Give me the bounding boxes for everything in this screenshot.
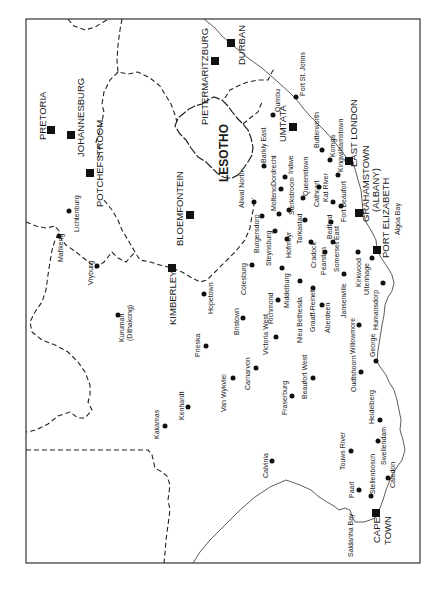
town-label: Willowmore [349, 318, 356, 354]
city-marker-johannesburg [67, 131, 75, 139]
town-marker-beaufort-west [311, 376, 316, 381]
town-label: Graaff-Reinet [309, 290, 316, 332]
city-label: PORT ELIZABETH [380, 177, 391, 258]
town-marker-barkly-east [262, 164, 267, 169]
town-label: Uitenhage [363, 263, 371, 295]
town-label: Hofmeyr [285, 231, 293, 258]
town-marker-kat-river [331, 200, 336, 205]
province-border [26, 450, 170, 563]
town-label: Burgersdorp [253, 214, 261, 253]
town-label: Nieu Bethesda [296, 297, 303, 343]
province-border [243, 102, 262, 124]
town-marker-george [374, 359, 379, 364]
town-marker-jansenville [342, 272, 347, 277]
south-africa-map: LESOTHO PRETORIA JOHANNESBURG POTCHEFSTR… [0, 0, 433, 593]
city-marker-potchefstroom [86, 169, 94, 177]
town-label: Dordrecht [270, 155, 277, 186]
town-marker-victoria-west [274, 335, 279, 340]
town-label: Aliwal North [238, 171, 245, 208]
town-label: Van Wykvlei [220, 374, 228, 412]
town-label: Tarkastad [296, 214, 303, 244]
town-label: Prieska [194, 334, 201, 357]
city-marker-umtata [289, 123, 297, 131]
town-label: Kingwilliamstown [337, 119, 345, 172]
town-label: Qumbu [274, 89, 282, 112]
town-marker-bristown [241, 316, 246, 321]
town-label: George [369, 334, 377, 357]
town-label: Saldanha Bay [347, 513, 355, 557]
province-border [117, 19, 177, 122]
town-label: Barkly East [260, 128, 268, 163]
city-label: TOWN [382, 516, 393, 545]
town-marker-indwe [283, 175, 288, 180]
city-label: BLOEMFONTEIN [174, 171, 185, 246]
town-label: Butterworth [313, 112, 320, 148]
town-marker-paarl [357, 488, 362, 493]
city-marker-cape-town [372, 509, 380, 517]
town-label: Aberdeen [324, 303, 331, 333]
city-marker-pretoria [47, 126, 55, 134]
town-label: Steynsburg [265, 230, 273, 266]
town-marker-heidelberg [378, 418, 383, 423]
town-marker-richmond [276, 298, 281, 303]
town-marker-aliwal-north [252, 200, 257, 205]
city-label: CAPE [371, 517, 382, 543]
town-label: (Dithakong) [126, 305, 134, 341]
town-label: Fraserburg [281, 381, 289, 415]
town-label: Algoa Bay [394, 203, 402, 235]
town-label: Colesburg [240, 263, 248, 295]
city-label: PRETORIA [37, 91, 48, 140]
town-label: Caledon [389, 462, 396, 488]
town-marker-hopetown [202, 292, 207, 297]
city-label: EAST LONDON [348, 99, 359, 167]
town-marker-kingwilliamstown [336, 173, 341, 178]
town-marker-kenhardt [186, 405, 191, 410]
town-label: Humansdorp [372, 290, 380, 330]
province-border [59, 236, 135, 268]
town-label: Kenhardt [178, 392, 185, 420]
town-label: Beaufort West [301, 355, 308, 399]
town-marker-middelburg [280, 266, 285, 271]
town-label: Oudtshoorn [350, 355, 357, 392]
town-marker-kakamas [163, 424, 168, 429]
city-label: POTCHEFSTROOM [94, 120, 105, 207]
town-marker-dordrecht [279, 187, 284, 192]
town-label: Fort Beaufort [340, 181, 347, 222]
city-marker-bloemfontein [186, 211, 194, 219]
town-label: Cathcart [313, 180, 320, 207]
town-marker-willowmore [357, 323, 362, 328]
region-label-lesotho: LESOTHO [217, 124, 231, 182]
town-marker-graaff-reinet [311, 286, 316, 291]
town-marker-butterworth [320, 148, 325, 153]
city-label: DURBAN [236, 25, 247, 65]
town-label: Komga [329, 135, 337, 157]
town-label: Pearston [320, 247, 327, 275]
town-label: Paarl [348, 481, 355, 498]
town-marker-tarkastad [303, 218, 308, 223]
town-marker-colesburg [250, 263, 255, 268]
province-border [68, 19, 110, 30]
town-label: Queenstown [302, 157, 310, 196]
town-marker-oudtshoorn [359, 370, 364, 375]
town-label: Port St. Johns [299, 52, 306, 96]
town-label: Mafikeng [57, 233, 65, 262]
town-marker-burgersdorp [260, 214, 265, 219]
town-label: Touws River [339, 431, 346, 470]
town-marker-nieu-bethesda [298, 279, 303, 284]
town-label: Kat River [322, 173, 329, 202]
town-label: Bristown [233, 308, 240, 335]
town-marker-prieska [204, 344, 209, 349]
town-label: Middelburg [283, 273, 291, 308]
city-label: PIETERMARITZBURG [199, 28, 210, 125]
city-label: KIMBERLEY [167, 270, 178, 325]
town-label: Kirkwood [355, 258, 362, 287]
town-label: Carnarvon [244, 357, 251, 390]
town-marker-van-wykvlei [231, 376, 236, 381]
town-label: Sterkstroom [288, 177, 295, 215]
town-label: Vryburg [87, 261, 95, 285]
town-label: Swellendam [380, 427, 387, 465]
town-marker-steynsburg [273, 229, 278, 234]
town-label: Hopetown [207, 282, 215, 314]
town-marker-kirkwood [356, 250, 361, 255]
city-label: JOHANNESBURG [75, 78, 86, 157]
